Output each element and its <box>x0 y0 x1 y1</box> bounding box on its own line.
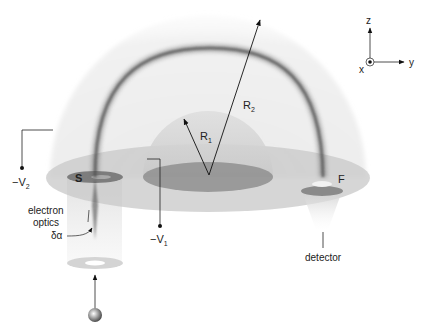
label-detector: detector <box>305 252 342 263</box>
axis-label-y: y <box>409 57 414 68</box>
label-acceptance-angle: δα <box>51 230 63 241</box>
label-source-slit: S <box>75 172 82 184</box>
coordinate-axes: z y x <box>359 15 414 75</box>
axis-label-z: z <box>366 15 371 26</box>
outer-voltage-lead <box>20 130 53 170</box>
label-electron-optics-1: electron <box>28 205 64 216</box>
axis-label-x: x <box>359 64 364 75</box>
detector <box>301 181 343 230</box>
label-inner-voltage: −V1 <box>150 233 168 247</box>
label-focus: F <box>338 173 345 185</box>
label-outer-voltage: −V2 <box>12 176 30 190</box>
analyzer-diagram: R2 R1 −V2 −V1 S F electron optics δα det… <box>0 0 427 334</box>
label-electron-optics-2: optics <box>33 217 59 228</box>
electron-source <box>88 275 102 322</box>
